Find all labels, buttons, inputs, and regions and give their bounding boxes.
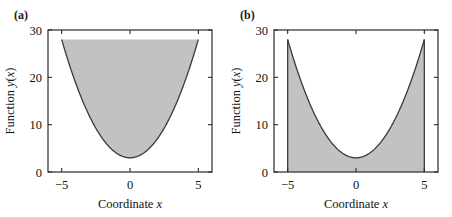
panel-a-x-axis-title-var: x xyxy=(156,197,163,211)
y-tick-label: 10 xyxy=(30,118,43,132)
panel-a-y-axis-title: Function y(x) xyxy=(3,67,17,134)
panel-b-y-axis-title: Function y(x) xyxy=(229,67,243,134)
y-tick-label: 0 xyxy=(262,166,268,180)
y-tick-label: 30 xyxy=(30,24,43,38)
panel-b-shaded-region xyxy=(288,39,425,172)
panel-a-y-axis-title-text: Function xyxy=(3,87,17,135)
panel-a-plot: −5050102030 Coordinate x Function y(x) xyxy=(0,0,226,217)
panel-b-y-axis-title-paren-close: ) xyxy=(229,67,243,71)
panel-b-x-axis-title-var: x xyxy=(382,197,389,211)
panel-a-svg: −5050102030 Coordinate x Function y(x) xyxy=(0,0,226,217)
panel-a-y-axis-title-paren-close: ) xyxy=(3,67,17,71)
panel-b-x-axis-title: Coordinate x xyxy=(324,197,389,211)
x-tick-label: 0 xyxy=(353,178,359,192)
figure-two-panel-parabola: (a) −5050102030 Coordinate x Function y(… xyxy=(0,0,452,217)
panel-a: (a) −5050102030 Coordinate x Function y(… xyxy=(0,0,226,217)
x-tick-label: 0 xyxy=(127,178,133,192)
x-tick-label: −5 xyxy=(281,178,294,192)
panel-b-plot: −5050102030 Coordinate x Function y(x) xyxy=(226,0,452,217)
y-tick-label: 20 xyxy=(30,71,43,85)
panel-a-x-axis-title-text: Coordinate xyxy=(98,197,157,211)
panel-b-x-axis-title-text: Coordinate xyxy=(324,197,383,211)
y-tick-label: 30 xyxy=(256,24,269,38)
x-tick-label: 5 xyxy=(421,178,427,192)
panel-b-svg: −5050102030 Coordinate x Function y(x) xyxy=(226,0,452,217)
panel-b-y-axis-title-text: Function xyxy=(229,87,243,135)
y-tick-label: 0 xyxy=(36,166,42,180)
panel-a-x-axis-title: Coordinate x xyxy=(98,197,163,211)
x-tick-label: −5 xyxy=(55,178,68,192)
y-tick-label: 10 xyxy=(256,118,269,132)
panel-b: (b) −5050102030 Coordinate x Function xyxy=(226,0,452,217)
y-tick-label: 20 xyxy=(256,71,269,85)
x-tick-label: 5 xyxy=(195,178,201,192)
